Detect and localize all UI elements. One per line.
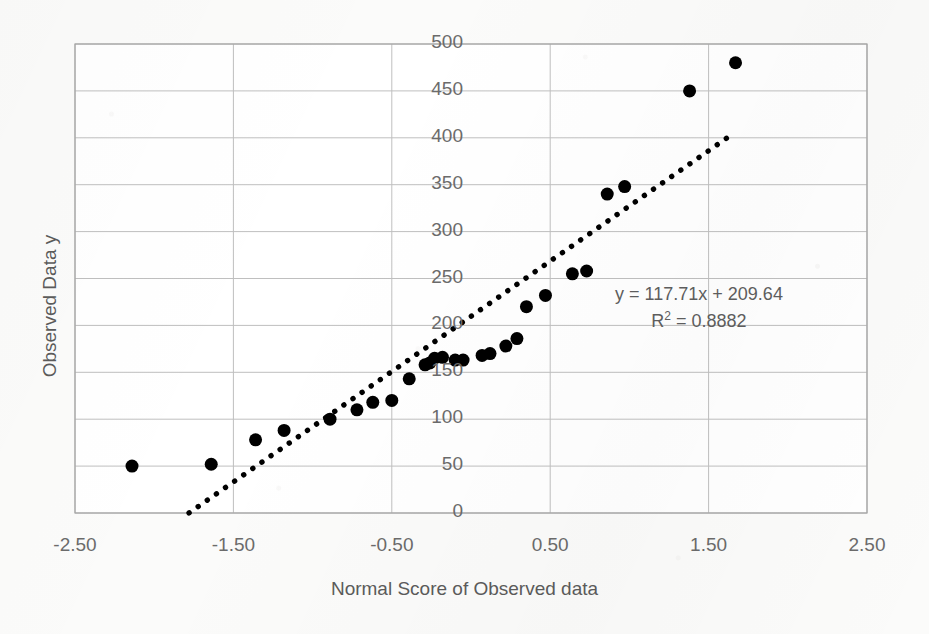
data-point	[499, 340, 512, 353]
data-point	[618, 180, 631, 193]
data-point	[366, 396, 379, 409]
y-axis-tick-label: 200	[399, 312, 463, 334]
trendline-equation-text: y = 117.71x + 209.64	[565, 282, 833, 308]
y-axis-tick-label: 0	[399, 500, 463, 522]
data-point	[520, 300, 533, 313]
x-axis-tick-label: -1.50	[188, 534, 278, 556]
y-axis-tick-label: 50	[399, 453, 463, 475]
y-axis-tick-label: 300	[399, 219, 463, 241]
r-squared-value: = 0.8882	[671, 311, 747, 331]
y-axis-tick-label: 250	[399, 266, 463, 288]
data-point	[484, 347, 497, 360]
data-point	[249, 433, 262, 446]
data-point	[385, 394, 398, 407]
data-point	[126, 460, 139, 473]
y-axis-title: Observed Data y	[39, 196, 61, 416]
y-axis-tick-label: 400	[399, 125, 463, 147]
y-axis-tick-label: 100	[399, 406, 463, 428]
data-point	[350, 403, 363, 416]
y-axis-tick-label: 500	[399, 31, 463, 53]
x-axis-title: Normal Score of Observed data	[0, 578, 929, 600]
data-point	[566, 267, 579, 280]
data-point	[205, 458, 218, 471]
r-squared-symbol: R	[651, 311, 664, 331]
x-axis-tick-label: -2.50	[30, 534, 120, 556]
y-axis-tick-label: 350	[399, 172, 463, 194]
trendline-annotation: y = 117.71x + 209.64 R2 = 0.8882	[565, 282, 833, 334]
x-axis-tick-label: 2.50	[822, 534, 912, 556]
r-squared-text: R2 = 0.8882	[565, 308, 833, 335]
x-axis-tick-label: 1.50	[664, 534, 754, 556]
y-axis-tick-label: 450	[399, 78, 463, 100]
data-point	[601, 188, 614, 201]
x-axis-tick-label: 0.50	[505, 534, 595, 556]
data-point	[324, 413, 337, 426]
x-axis-tick-label: -0.50	[347, 534, 437, 556]
data-point	[510, 332, 523, 345]
normal-probability-plot: Observed Data y Normal Score of Observed…	[0, 0, 929, 634]
data-point	[539, 289, 552, 302]
data-point	[278, 424, 291, 437]
y-axis-tick-label: 150	[399, 359, 463, 381]
data-point	[580, 264, 593, 277]
data-point	[729, 56, 742, 69]
data-point	[683, 84, 696, 97]
